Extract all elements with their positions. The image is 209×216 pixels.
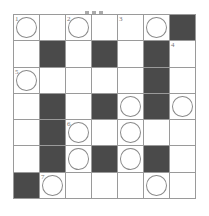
grid-cell[interactable] — [66, 94, 92, 120]
circle-icon — [120, 122, 141, 143]
grid-cell[interactable] — [66, 41, 92, 67]
grid-cell[interactable] — [92, 68, 118, 94]
clue-number: 2 — [67, 15, 71, 23]
grid-cell[interactable] — [14, 94, 40, 120]
grid-cell[interactable] — [66, 173, 92, 199]
black-square — [144, 41, 170, 67]
circle-icon — [16, 17, 37, 38]
black-square — [40, 41, 66, 67]
circle-icon — [120, 96, 141, 117]
grid-cell[interactable] — [144, 120, 170, 146]
circle-icon — [172, 96, 193, 117]
black-square — [144, 146, 170, 172]
grid-cell[interactable] — [40, 15, 66, 41]
grid-cell[interactable]: 2 — [66, 15, 92, 41]
grid-cell[interactable] — [118, 41, 144, 67]
grid-cell[interactable]: 4 — [170, 41, 196, 67]
clue-number: 3 — [119, 15, 123, 23]
clue-number: 5 — [15, 68, 19, 76]
grid-cell[interactable] — [14, 41, 40, 67]
black-square — [40, 120, 66, 146]
circle-icon — [42, 175, 63, 196]
clue-number: 1 — [15, 15, 19, 23]
clue-number: 7 — [41, 173, 45, 181]
header-mark — [85, 1, 125, 7]
black-square — [144, 94, 170, 120]
circle-icon — [16, 70, 37, 91]
grid-cell[interactable] — [66, 68, 92, 94]
black-square — [40, 146, 66, 172]
circle-icon — [146, 17, 167, 38]
circle-icon — [120, 148, 141, 169]
grid-cell[interactable] — [118, 120, 144, 146]
grid-cell[interactable]: 5 — [14, 68, 40, 94]
grid-cell[interactable] — [92, 173, 118, 199]
grid-cell[interactable] — [14, 146, 40, 172]
circle-icon — [68, 122, 89, 143]
grid-cell[interactable] — [66, 146, 92, 172]
black-square — [92, 94, 118, 120]
grid-cell[interactable] — [118, 146, 144, 172]
grid-cell[interactable] — [170, 146, 196, 172]
grid-cell[interactable] — [170, 94, 196, 120]
grid-cell[interactable] — [92, 120, 118, 146]
grid-cell[interactable] — [14, 120, 40, 146]
grid-cell[interactable]: 3 — [118, 15, 144, 41]
circle-icon — [68, 17, 89, 38]
grid-cell[interactable]: 7 — [40, 173, 66, 199]
black-square — [92, 146, 118, 172]
grid-cell[interactable] — [170, 120, 196, 146]
circle-icon — [146, 175, 167, 196]
grid-cell[interactable] — [118, 68, 144, 94]
grid-cell[interactable] — [118, 173, 144, 199]
black-square — [92, 41, 118, 67]
black-square — [14, 173, 40, 199]
grid-cell[interactable]: 1 — [14, 15, 40, 41]
clue-number: 6 — [67, 120, 71, 128]
grid-cell[interactable] — [92, 15, 118, 41]
grid-cell[interactable] — [144, 173, 170, 199]
crossword-grid: 1234567 — [13, 14, 196, 199]
grid-cell[interactable]: 6 — [66, 120, 92, 146]
circle-icon — [68, 148, 89, 169]
grid-cell[interactable] — [170, 173, 196, 199]
clue-number: 4 — [171, 41, 175, 49]
black-square — [40, 94, 66, 120]
grid-cell[interactable] — [40, 68, 66, 94]
black-square — [144, 68, 170, 94]
grid-cell[interactable] — [118, 94, 144, 120]
black-square — [170, 15, 196, 41]
grid-cell[interactable] — [144, 15, 170, 41]
grid-cell[interactable] — [170, 68, 196, 94]
